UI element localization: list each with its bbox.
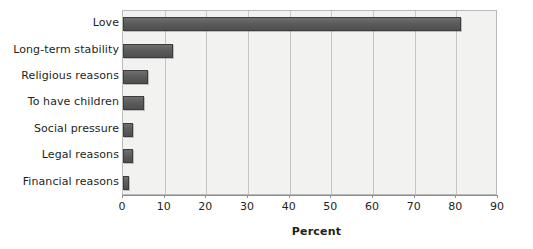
bar — [123, 123, 133, 137]
x-tick-label: 40 — [272, 200, 306, 213]
category-label: To have children — [0, 96, 119, 108]
bar — [123, 96, 144, 110]
bar-chart: LoveLong-term stabilityReligious reasons… — [0, 0, 533, 249]
x-tick-10 — [164, 195, 165, 198]
category-label: Long-term stability — [0, 44, 119, 56]
gridline-20 — [206, 11, 207, 194]
x-tick-label: 50 — [313, 200, 347, 213]
x-tick-80 — [455, 195, 456, 198]
x-axis-title-label: Percent — [292, 225, 341, 238]
x-tick-label: 20 — [188, 200, 222, 213]
gridline-10 — [165, 11, 166, 194]
x-tick-label: 0 — [105, 200, 139, 213]
x-tick-label: 90 — [480, 200, 514, 213]
x-tick-label: 60 — [355, 200, 389, 213]
gridline-40 — [290, 11, 291, 194]
x-tick-0 — [122, 195, 123, 198]
gridline-80 — [456, 11, 457, 194]
x-tick-60 — [372, 195, 373, 198]
x-tick-20 — [205, 195, 206, 198]
x-tick-label: 80 — [438, 200, 472, 213]
category-label: Social pressure — [0, 123, 119, 135]
gridline-60 — [373, 11, 374, 194]
x-axis-line — [122, 195, 497, 196]
x-tick-label: 30 — [230, 200, 264, 213]
gridline-50 — [331, 11, 332, 194]
x-axis-title: Percent — [0, 225, 533, 238]
gridline-30 — [248, 11, 249, 194]
x-tick-90 — [497, 195, 498, 198]
bar — [123, 44, 173, 58]
category-label: Religious reasons — [0, 70, 119, 82]
bar — [123, 70, 148, 84]
bar — [123, 176, 129, 190]
x-tick-label: 70 — [397, 200, 431, 213]
x-tick-70 — [414, 195, 415, 198]
plot-area — [122, 10, 497, 195]
x-tick-label: 10 — [147, 200, 181, 213]
bar — [123, 149, 133, 163]
x-tick-50 — [330, 195, 331, 198]
gridline-70 — [415, 11, 416, 194]
category-label: Legal reasons — [0, 149, 119, 161]
x-tick-30 — [247, 195, 248, 198]
category-axis-labels: LoveLong-term stabilityReligious reasons… — [0, 10, 119, 195]
x-tick-40 — [289, 195, 290, 198]
category-label: Financial reasons — [0, 176, 119, 188]
category-label: Love — [0, 17, 119, 29]
bar — [123, 17, 461, 31]
